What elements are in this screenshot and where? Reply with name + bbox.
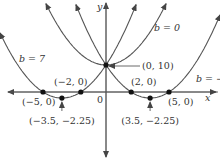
series-label-bneg7: b = −7: [196, 73, 220, 84]
curve-arrow-end: [135, 5, 136, 8]
point: [78, 89, 83, 94]
curve-arrow-start: [46, 4, 47, 6]
series-label-b0: b = 0: [154, 22, 180, 33]
y-axis-label: y: [96, 1, 103, 12]
point: [40, 89, 45, 94]
label-neg5-0: (−5, 0): [22, 96, 56, 107]
label-3-5: (3.5, −2.25): [121, 115, 179, 126]
curve-arrow-start: [0, 33, 1, 35]
label-neg2-0: (−2, 0): [54, 76, 88, 87]
curve-arrow-end: [165, 4, 166, 6]
point: [59, 95, 64, 100]
chart: b = 7b = 0b = −7(0, 10)(−5, 0)(−2, 0)(2,…: [0, 0, 220, 158]
label-0-10: (0, 10): [142, 60, 174, 71]
point: [166, 89, 171, 94]
point: [129, 89, 134, 94]
curve-arrow-start: [76, 5, 77, 8]
curve-arrow-end: [219, 15, 220, 17]
point: [103, 62, 108, 67]
series-label-b7: b = 7: [19, 53, 46, 64]
x-axis-label: x: [205, 92, 211, 103]
label-neg3-5: (−3.5, −2.25): [29, 115, 95, 126]
label-2-0: (2, 0): [131, 76, 157, 87]
point: [148, 95, 153, 100]
label-5-0: (5, 0): [168, 96, 194, 107]
origin-label: 0: [97, 94, 103, 105]
